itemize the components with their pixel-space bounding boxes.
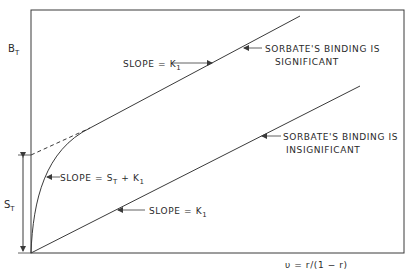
- curve-slope-label: SLOPE = ST + K1: [60, 173, 145, 186]
- initial-curve: [31, 128, 90, 253]
- insignificant-label-line2: INSIGNIFICANT: [286, 145, 360, 155]
- insignificant-line: [31, 86, 360, 253]
- lower-slope-label: SLOPE = K1: [149, 206, 207, 219]
- intercept-label: ST: [4, 199, 15, 213]
- binding-diagram: BT ST υ = r/(1 − r) SLOPE = K1 SORBATE'S…: [0, 0, 411, 279]
- significant-label-line1: SORBATE'S BINDING IS: [265, 44, 380, 54]
- x-axis-label: υ = r/(1 − r): [285, 260, 348, 270]
- y-axis-label: BT: [8, 43, 20, 57]
- significant-line: [90, 16, 300, 128]
- significant-label-line2: SIGNIFICANT: [275, 57, 339, 67]
- insignificant-label-line1: SORBATE'S BINDING IS: [283, 132, 398, 142]
- upper-slope-label: SLOPE = K1: [123, 59, 181, 72]
